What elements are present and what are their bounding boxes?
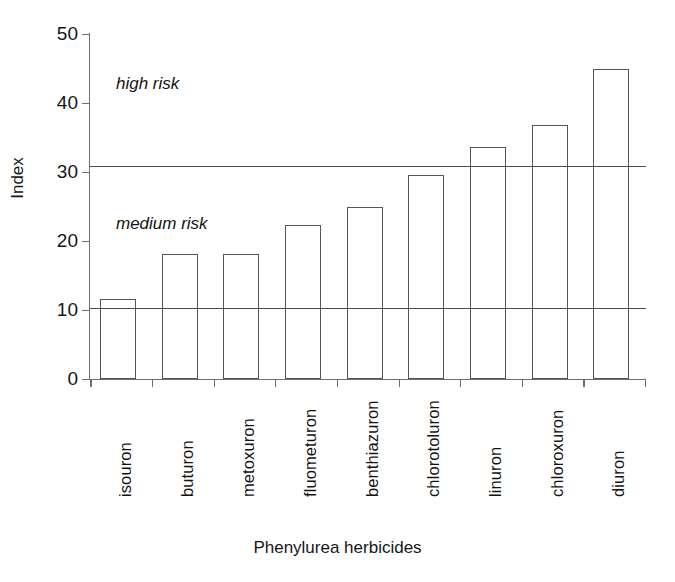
x-tick-3 [275, 379, 276, 387]
chart-page: 50 40 30 20 10 0 Index isouronbuturonmet… [0, 0, 675, 582]
x-tick-4 [337, 379, 338, 387]
x-axis-title: Phenylurea herbicides [0, 538, 675, 558]
bar-linuron [470, 147, 506, 379]
annotation-medium-risk: medium risk [116, 214, 208, 234]
y-tick-0 [82, 379, 90, 380]
x-axis-line [82, 379, 645, 380]
x-category-label-chloroxuron: chloroxuron [548, 410, 567, 497]
x-category-label-fluometuron: fluometuron [301, 409, 320, 497]
x-category-label-chlorotoluron: chlorotoluron [424, 400, 443, 497]
y-tick-40 [82, 103, 90, 104]
bar-chlorotoluron [408, 175, 444, 379]
x-tick-5 [399, 379, 400, 387]
y-tick-label-50: 50 [44, 24, 78, 43]
bar-benthiazuron [347, 207, 383, 379]
x-category-label-isouron: isouron [116, 442, 135, 497]
y-tick-30 [82, 172, 90, 173]
y-axis-title: Index [8, 98, 28, 258]
x-tick-1 [152, 379, 153, 387]
y-tick-label-40: 40 [44, 93, 78, 112]
bar-fluometuron [285, 225, 321, 379]
bar-diuron [593, 69, 629, 378]
annotation-high-risk: high risk [116, 74, 179, 94]
x-category-label-benthiazuron: benthiazuron [363, 400, 382, 497]
x-category-label-diuron: diuron [609, 451, 628, 497]
y-tick-10 [82, 310, 90, 311]
x-tick-6 [460, 379, 461, 387]
y-tick-label-10: 10 [44, 300, 78, 319]
bar-isouron [100, 299, 136, 379]
bar-buturon [162, 254, 198, 379]
x-tick-9 [645, 379, 646, 387]
x-tick-0 [90, 379, 91, 387]
x-tick-2 [214, 379, 215, 387]
x-category-label-buturon: buturon [178, 440, 197, 497]
y-axis-line [89, 33, 90, 380]
x-tick-8 [583, 379, 584, 387]
y-tick-20 [82, 241, 90, 242]
bar-metoxuron [223, 254, 259, 379]
x-tick-7 [522, 379, 523, 387]
x-category-label-metoxuron: metoxuron [239, 418, 258, 497]
y-tick-label-0: 0 [44, 369, 78, 388]
bar-chloroxuron [532, 125, 568, 379]
medium-risk-boundary [90, 308, 646, 309]
x-category-label-linuron: linuron [486, 447, 505, 497]
y-tick-label-group: 50 40 30 20 10 0 [38, 0, 78, 582]
y-tick-label-20: 20 [44, 231, 78, 250]
y-tick-50 [82, 34, 90, 35]
y-tick-label-30: 30 [44, 162, 78, 181]
high-risk-boundary [90, 166, 646, 167]
